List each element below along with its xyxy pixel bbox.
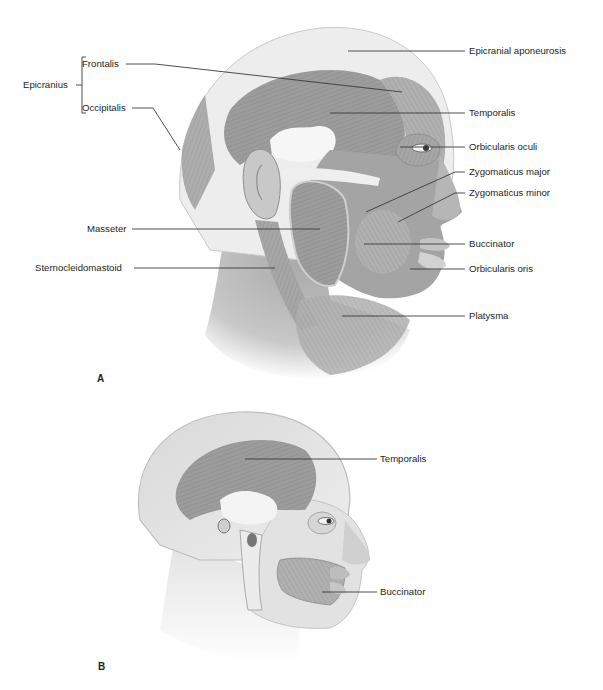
label-orbicularis-oris: Orbicularis oris [469, 263, 533, 274]
label-zygomaticus-major: Zygomaticus major [469, 166, 550, 177]
label-zygomaticus-minor: Zygomaticus minor [469, 187, 550, 198]
label-occipitalis: Occipitalis [82, 102, 126, 113]
label-buccinator-a: Buccinator [469, 238, 514, 249]
label-epicranius: Epicranius [23, 79, 68, 90]
label-frontalis: Frontalis [82, 58, 119, 69]
label-epicranial-aponeurosis: Epicranial aponeurosis [469, 45, 566, 56]
panel-letter-b: B [98, 661, 105, 672]
label-platysma: Platysma [469, 310, 508, 321]
label-buccinator-b: Buccinator [380, 586, 425, 597]
label-masseter: Masseter [87, 223, 126, 234]
label-orbicularis-oculi: Orbicularis oculi [469, 141, 537, 152]
label-temporalis-b: Temporalis [380, 453, 426, 464]
label-temporalis-a: Temporalis [469, 107, 515, 118]
head-a [180, 27, 462, 380]
panel-letter-a: A [97, 373, 104, 384]
label-sternocleidomastoid: Sternocleidomastoid [35, 262, 122, 273]
head-b [138, 412, 370, 665]
